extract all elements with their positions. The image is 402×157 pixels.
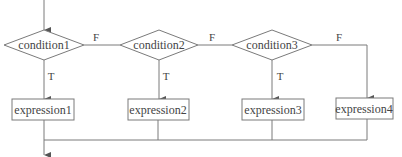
condition1-label: condition1 <box>18 39 69 51</box>
false-label-c2: F <box>209 32 215 43</box>
false-label-c1: F <box>93 32 99 43</box>
flowchart-lines <box>0 0 402 157</box>
flowchart: condition1 condition2 condition3 express… <box>0 0 402 157</box>
expression3-label: expression3 <box>244 104 301 116</box>
expression4-label: expression4 <box>335 103 392 115</box>
true-label-c2: T <box>163 71 170 82</box>
expression1-label: expression1 <box>14 104 71 116</box>
true-label-c1: T <box>48 71 55 82</box>
true-label-c3: T <box>277 71 284 82</box>
expression2-label: expression2 <box>129 104 186 116</box>
false-label-c3: F <box>336 32 342 43</box>
condition3-label: condition3 <box>246 39 297 51</box>
condition2-label: condition2 <box>133 39 184 51</box>
false-edge-c3-e4 <box>312 45 367 98</box>
